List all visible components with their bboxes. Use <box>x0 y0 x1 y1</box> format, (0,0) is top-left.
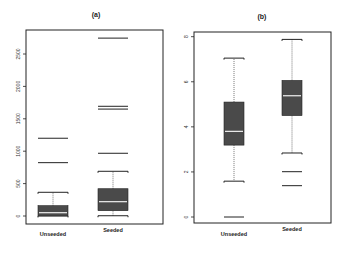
x-label: Unseeded <box>221 231 247 237</box>
y-tick-label: 1000 <box>15 145 21 156</box>
x-label: Unseeded <box>40 231 66 237</box>
x-label: Seeded <box>282 226 302 232</box>
box-seeded <box>98 38 128 217</box>
y-tick-label: 1500 <box>15 113 21 124</box>
iqr-box <box>38 206 68 216</box>
iqr-box <box>282 80 302 115</box>
x-label: Seeded <box>103 227 123 233</box>
y-tick-label: 2 <box>183 170 189 173</box>
y-tick-label: 0 <box>183 215 189 218</box>
y-tick-label: 6 <box>183 80 189 83</box>
panel-a: (a)05001000150020002500UnseededSeeded <box>15 11 163 237</box>
plot-frame <box>194 32 331 223</box>
iqr-box <box>98 189 128 211</box>
y-tick-label: 4 <box>183 125 189 128</box>
box-unseeded <box>38 138 68 217</box>
panel-b: (b)02468UnseededSeeded <box>183 13 331 237</box>
box-seeded <box>282 39 302 185</box>
lower-cap <box>282 153 302 155</box>
y-tick-label: 0 <box>15 214 21 217</box>
box-unseeded <box>224 58 244 217</box>
y-tick-label: 500 <box>15 179 21 188</box>
lower-cap <box>224 181 244 183</box>
iqr-box <box>224 102 244 145</box>
panel-title: (a) <box>92 11 101 19</box>
lower-cap <box>98 216 128 218</box>
y-tick-label: 8 <box>183 35 189 38</box>
boxplot-figure: (a)05001000150020002500UnseededSeeded(b)… <box>0 0 351 254</box>
y-tick-label: 2500 <box>15 48 21 59</box>
y-tick-label: 2000 <box>15 81 21 92</box>
panel-title: (b) <box>258 13 267 21</box>
plot-frame <box>26 30 163 224</box>
